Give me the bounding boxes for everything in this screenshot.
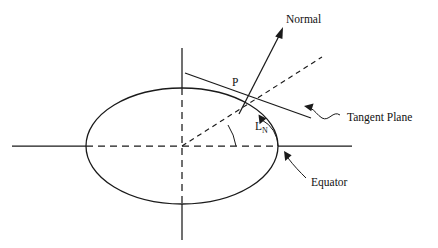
normal-vector-arrowhead [275,27,283,39]
geocentric-radius-dashed-line [182,57,322,146]
point-p-label: P [232,76,238,88]
latitude-symbol-label: L [255,120,262,132]
diagram-canvas: Normal Tangent Plane Equator P L N [0,0,438,248]
tangent-plane-label: Tangent Plane [347,111,412,124]
equator-leader-arrowhead [284,151,292,161]
latitude-subscript-label: N [262,126,268,135]
equator-leader-line [288,158,306,178]
tangent-plane-leader-arrowhead [304,103,314,111]
tangent-plane-leader-line [310,108,340,119]
ellipsoid-geometry-figure: Normal Tangent Plane Equator P L N [0,0,438,248]
normal-label: Normal [286,13,321,25]
equator-label: Equator [311,176,348,189]
geocentric-angle-arc [228,125,236,146]
normal-vector-line [239,34,280,114]
